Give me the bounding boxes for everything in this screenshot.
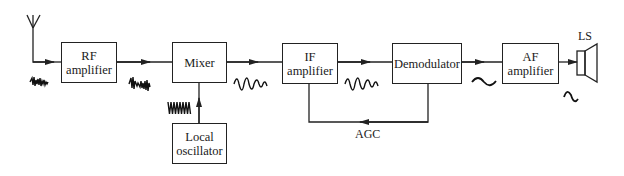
af-amplifier-label-2: amplifier bbox=[508, 64, 554, 78]
agc-feedback-wire bbox=[309, 83, 428, 122]
amplified-if-signal-icon bbox=[345, 78, 378, 90]
if-amplifier-label-2: amplifier bbox=[287, 64, 333, 78]
rf-amplifier-block: RF amplifier bbox=[61, 42, 117, 83]
local-oscillator-label-1: Local bbox=[185, 130, 213, 144]
demodulator-block: Demodulator bbox=[392, 43, 462, 84]
amplified-rf-signal-icon bbox=[129, 77, 150, 91]
antenna-icon bbox=[27, 15, 50, 62]
af-amplifier-block: AF amplifier bbox=[502, 43, 559, 84]
local-oscillator-block: Local oscillator bbox=[172, 123, 227, 164]
rf-noisy-signal-icon bbox=[30, 77, 48, 86]
mixer-label: Mixer bbox=[184, 56, 215, 70]
af-amplifier-label-1: AF bbox=[523, 50, 539, 64]
audio-signal-icon bbox=[472, 78, 496, 85]
diagram-wiring bbox=[0, 0, 624, 176]
amplified-audio-signal-icon bbox=[564, 92, 578, 101]
local-oscillator-signal-icon bbox=[168, 102, 191, 114]
if-amplifier-block: IF amplifier bbox=[282, 43, 338, 84]
rf-amplifier-label-2: amplifier bbox=[66, 63, 112, 77]
mixer-block: Mixer bbox=[172, 42, 227, 83]
loudspeaker-label: LS bbox=[578, 29, 592, 44]
demodulator-label: Demodulator bbox=[394, 57, 460, 71]
if-signal-icon bbox=[234, 78, 267, 90]
local-oscillator-label-2: oscillator bbox=[176, 144, 223, 158]
if-amplifier-label-1: IF bbox=[304, 50, 315, 64]
rf-amplifier-label-1: RF bbox=[81, 49, 96, 63]
agc-label: AGC bbox=[355, 127, 380, 142]
loudspeaker-icon bbox=[577, 44, 597, 82]
